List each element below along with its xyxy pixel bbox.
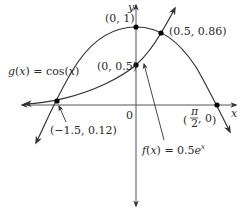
label-point-intersect: (0.5, 0.86) — [169, 25, 227, 38]
point-pi-half-0 — [214, 102, 219, 107]
f-function-label: f(x) = 0.5ex — [141, 143, 205, 157]
label-point-pi-half: ( π 2 , 0 ) — [183, 105, 216, 130]
pi-rest: , 0 — [198, 112, 212, 125]
point-0.5-0.86 — [158, 30, 163, 35]
pi-denominator: 2 — [191, 117, 198, 130]
g-function-label: g(x) = cos(x) — [8, 65, 79, 78]
label-point-0-1: (0, 1) — [105, 12, 135, 25]
g-close: ) — [75, 65, 79, 78]
f-exp: x — [201, 143, 205, 151]
point-neg1.5-0.12 — [54, 98, 59, 103]
label-point-left: (−1.5, 0.12) — [50, 124, 117, 137]
label-point-0-0.5: (0, 0.5) — [97, 60, 137, 73]
g-name: g — [8, 65, 15, 78]
x-axis-label: x — [231, 107, 238, 120]
paren-right: ) — [212, 114, 216, 127]
f-eq: ) = 0.5 — [157, 144, 195, 157]
g-eq: ) = cos( — [26, 65, 69, 78]
function-graph: x y 0 (0, 1) (0.5, 0.86) (0, 0.5) (−1.5,… — [0, 0, 242, 210]
paren-left: ( — [183, 114, 187, 127]
leader-f-label — [144, 64, 164, 140]
origin-label: 0 — [126, 109, 133, 122]
leader-left-point — [59, 106, 66, 122]
f-curve — [25, 8, 175, 104]
point-0-1 — [133, 24, 138, 29]
